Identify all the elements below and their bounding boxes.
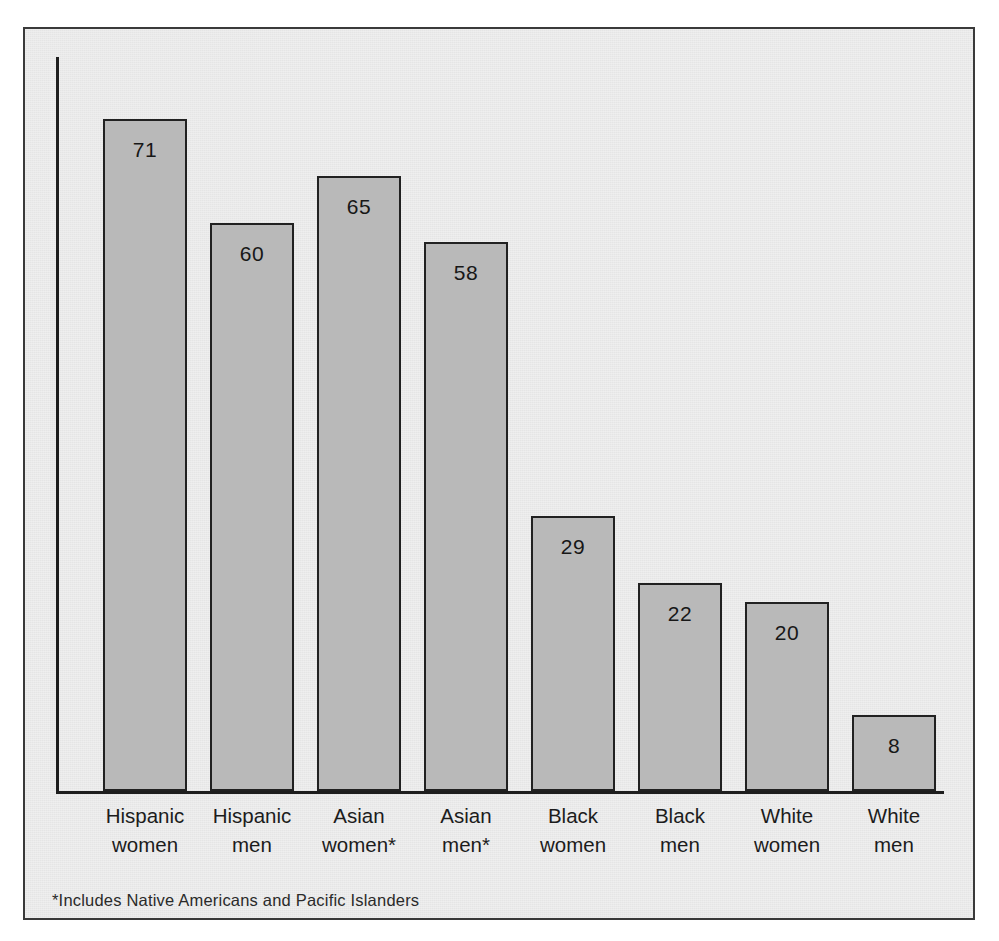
category-label-line2: men [831, 830, 957, 859]
bar-asian-men[interactable]: 58 [424, 242, 508, 791]
category-label-line1: Asian [440, 804, 491, 827]
category-label-line1: Asian [333, 804, 384, 827]
chart-footnote: *Includes Native Americans and Pacific I… [52, 891, 419, 910]
bar-white-men[interactable]: 8 [852, 715, 936, 791]
category-label-7: Whitemen [831, 801, 957, 859]
bar-black-men[interactable]: 22 [638, 583, 722, 791]
bar-black-women[interactable]: 29 [531, 516, 615, 791]
bar-value-label: 60 [212, 242, 292, 266]
category-label-line1: Black [655, 804, 705, 827]
bar-value-label: 58 [426, 261, 506, 285]
bar-value-label: 20 [747, 621, 827, 645]
bar-hispanic-women[interactable]: 71 [103, 119, 187, 791]
category-label-line1: Hispanic [213, 804, 292, 827]
category-label-line1: Hispanic [106, 804, 185, 827]
bar-asian-women[interactable]: 65 [317, 176, 401, 791]
bar-value-label: 8 [854, 734, 934, 758]
category-label-line1: Black [548, 804, 598, 827]
bar-value-label: 22 [640, 602, 720, 626]
bar-value-label: 65 [319, 195, 399, 219]
category-label-line1: White [868, 804, 920, 827]
bar-value-label: 71 [105, 138, 185, 162]
bar-hispanic-men[interactable]: 60 [210, 223, 294, 791]
bar-value-label: 29 [533, 535, 613, 559]
bar-white-women[interactable]: 20 [745, 602, 829, 791]
chart-figure: 716065582922208 HispanicwomenHispanicmen… [23, 27, 975, 920]
plot-area: 716065582922208 [25, 29, 975, 792]
category-label-line1: White [761, 804, 813, 827]
category-axis-labels: HispanicwomenHispanicmenAsianwomen*Asian… [25, 801, 975, 873]
